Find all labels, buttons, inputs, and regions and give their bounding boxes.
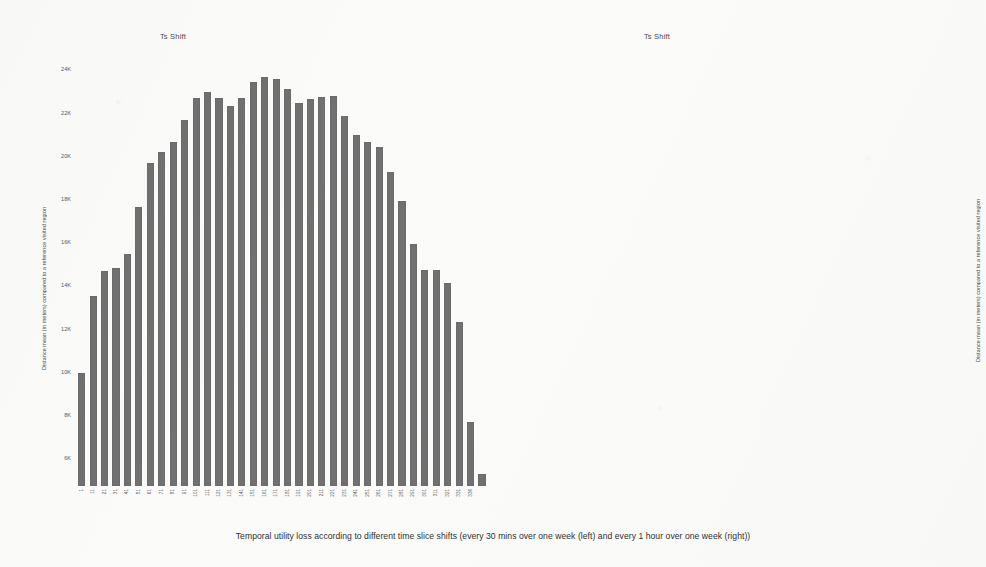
bar bbox=[193, 98, 200, 486]
bar bbox=[353, 135, 360, 486]
bar bbox=[273, 79, 280, 486]
x-axis-tick: 251 bbox=[365, 489, 370, 497]
bar bbox=[261, 77, 268, 486]
bar bbox=[376, 147, 383, 486]
x-axis-tick: 151 bbox=[251, 489, 256, 497]
bar bbox=[181, 120, 188, 486]
bar-item: 41 bbox=[122, 58, 133, 486]
x-axis-tick: 281 bbox=[400, 489, 405, 497]
bar-item: 71 bbox=[156, 58, 167, 486]
x-axis-tick: 221 bbox=[331, 489, 336, 497]
bar-item: 231 bbox=[339, 58, 350, 486]
chart-panel-right: Ts Shift Distance mean (in meters) compa… bbox=[478, 0, 986, 520]
x-axis-tick: 171 bbox=[274, 489, 279, 497]
bar bbox=[295, 103, 302, 486]
bar-item: 121 bbox=[213, 58, 224, 486]
x-axis-tick: 241 bbox=[354, 489, 359, 497]
bar bbox=[398, 201, 405, 486]
y-axis-tick-left: 10K bbox=[61, 369, 71, 375]
x-axis-tick: 51 bbox=[137, 489, 142, 494]
y-axis-tick-left: 16K bbox=[61, 239, 71, 245]
bar-item: 101 bbox=[190, 58, 201, 486]
bar-item: 131 bbox=[225, 58, 236, 486]
y-axis-tick-left: 20K bbox=[61, 153, 71, 159]
bar bbox=[284, 89, 291, 486]
bar-item: 261 bbox=[373, 58, 384, 486]
bar-item: 191 bbox=[293, 58, 304, 486]
bar bbox=[227, 106, 234, 486]
bar bbox=[135, 207, 142, 486]
bar-item: 321 bbox=[442, 58, 453, 486]
chart-title-right: Ts Shift bbox=[478, 32, 986, 41]
bar-item: 111 bbox=[202, 58, 213, 486]
x-axis-tick: 111 bbox=[205, 489, 210, 496]
x-axis-tick: 201 bbox=[308, 489, 313, 497]
x-axis-tick: 301 bbox=[423, 489, 428, 497]
x-axis-tick: 291 bbox=[411, 489, 416, 497]
bar-item: 221 bbox=[328, 58, 339, 486]
bar-item: 331 bbox=[453, 58, 464, 486]
bar-item: 301 bbox=[419, 58, 430, 486]
x-axis-tick: 31 bbox=[114, 489, 119, 494]
bar bbox=[204, 92, 211, 486]
bar-item: 311 bbox=[431, 58, 442, 486]
bar-item: 241 bbox=[351, 58, 362, 486]
bar bbox=[421, 270, 428, 486]
x-axis-tick: 261 bbox=[377, 489, 382, 497]
bar bbox=[215, 98, 222, 486]
bar bbox=[250, 82, 257, 486]
x-axis-tick: 121 bbox=[217, 489, 222, 497]
bar bbox=[341, 116, 348, 486]
bar bbox=[330, 96, 337, 486]
bar bbox=[307, 99, 314, 486]
x-axis-tick: 331 bbox=[457, 489, 462, 497]
bar bbox=[433, 270, 440, 486]
chart-title-left: Ts Shift bbox=[0, 32, 496, 41]
bar bbox=[101, 271, 108, 486]
bar bbox=[170, 142, 177, 486]
bar-item: 251 bbox=[362, 58, 373, 486]
bar-item: 1 bbox=[76, 58, 87, 486]
x-axis-tick: 61 bbox=[148, 489, 153, 494]
x-axis-tick: 211 bbox=[320, 489, 325, 496]
x-axis-tick: 11 bbox=[91, 489, 96, 494]
y-axis-tick-left: 8K bbox=[64, 412, 71, 418]
bar-series-left: 1112131415161718191101111121131141151161… bbox=[76, 58, 488, 486]
bar bbox=[444, 283, 451, 486]
plot-area-left: 1112131415161718191101111121131141151161… bbox=[76, 58, 488, 486]
y-axis-tick-left: 22K bbox=[61, 110, 71, 116]
x-axis-tick: 41 bbox=[125, 489, 130, 494]
chart-panel-left: Ts Shift Distance mean (in meters) compa… bbox=[0, 0, 496, 520]
x-axis-tick: 91 bbox=[182, 489, 187, 494]
bar bbox=[238, 98, 245, 486]
bar bbox=[387, 172, 394, 487]
bar bbox=[158, 152, 165, 486]
x-axis-tick: 311 bbox=[434, 489, 439, 496]
bar-item: 201 bbox=[305, 58, 316, 486]
y-axis-label-right: Distance mean (in meters) compared to a … bbox=[975, 150, 981, 410]
y-axis-tick-left: 14K bbox=[61, 282, 71, 288]
bar-item: 336 bbox=[465, 58, 476, 486]
figure-caption: Temporal utility loss according to diffe… bbox=[0, 531, 986, 541]
x-axis-tick: 271 bbox=[388, 489, 393, 497]
bar bbox=[456, 322, 463, 486]
x-axis-tick: 71 bbox=[159, 489, 164, 494]
y-axis-label-left: Distance mean (in meters) compared to a … bbox=[41, 168, 47, 408]
x-axis-tick: 161 bbox=[262, 489, 267, 497]
bar-item: 91 bbox=[179, 58, 190, 486]
y-axis-tick-left: 6K bbox=[64, 455, 71, 461]
x-axis-tick: 81 bbox=[171, 489, 176, 494]
bar bbox=[112, 268, 119, 486]
bar-item: 31 bbox=[110, 58, 121, 486]
bar-item: 61 bbox=[145, 58, 156, 486]
bar-item: 11 bbox=[87, 58, 98, 486]
bar bbox=[147, 163, 154, 486]
bar bbox=[364, 142, 371, 486]
bar bbox=[467, 422, 474, 486]
bar bbox=[124, 254, 131, 486]
y-axis-tick-left: 12K bbox=[61, 326, 71, 332]
x-axis-tick: 231 bbox=[342, 489, 347, 497]
bar-item: 181 bbox=[282, 58, 293, 486]
x-axis-tick: 1 bbox=[79, 489, 84, 492]
bar-item: 141 bbox=[236, 58, 247, 486]
